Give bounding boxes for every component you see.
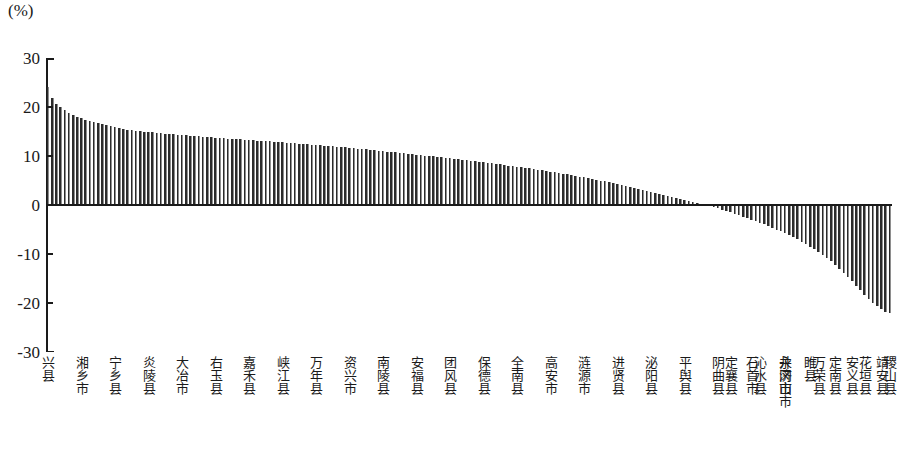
bar — [177, 135, 180, 205]
bar — [93, 122, 96, 205]
bar — [453, 159, 456, 205]
bar — [776, 205, 779, 230]
bar — [759, 205, 762, 223]
x-category-label: 大冶市 — [176, 356, 189, 395]
x-category-label: 南陵县 — [377, 356, 390, 395]
x-category-label: 睢县 — [804, 356, 817, 382]
bar — [595, 180, 598, 205]
bar — [59, 107, 62, 205]
bar — [817, 205, 820, 252]
x-category-label: 安福县 — [410, 356, 423, 395]
y-axis-tick — [46, 253, 53, 255]
bar — [160, 133, 163, 205]
bar — [583, 177, 586, 205]
bar — [298, 144, 301, 205]
bar — [378, 151, 381, 205]
y-axis-tick — [46, 155, 53, 157]
bar — [361, 149, 364, 205]
bar — [306, 144, 309, 205]
bar — [357, 149, 360, 205]
bar — [625, 186, 628, 205]
bar — [47, 87, 50, 205]
bar — [181, 135, 184, 205]
x-category-label: 湘乡市 — [75, 356, 88, 395]
bar — [579, 177, 582, 205]
x-category-label: 沁水县 — [754, 356, 767, 395]
bar — [788, 205, 791, 235]
bar — [843, 205, 846, 273]
bar — [382, 151, 385, 205]
bar — [415, 155, 418, 205]
x-category-label: 进贤县 — [611, 356, 624, 395]
bar — [394, 152, 397, 205]
bar — [884, 205, 887, 312]
bar — [68, 113, 71, 205]
bar — [440, 157, 443, 205]
bar — [633, 188, 636, 205]
bar — [64, 110, 67, 205]
bar — [742, 205, 745, 217]
bar — [373, 150, 376, 205]
bar — [198, 136, 201, 205]
bar — [147, 132, 150, 205]
bar — [210, 137, 213, 205]
bar — [600, 181, 603, 206]
bar — [646, 191, 649, 205]
bar — [570, 175, 573, 205]
bar — [889, 205, 892, 313]
bar — [327, 146, 330, 205]
bar — [164, 134, 167, 205]
bar — [244, 140, 247, 205]
x-category-label: 炎陵县 — [142, 356, 155, 395]
bar — [855, 205, 858, 286]
bar — [537, 170, 540, 205]
bar — [97, 123, 100, 205]
bar — [608, 182, 611, 205]
bar — [591, 179, 594, 205]
bar — [499, 164, 502, 205]
bar — [227, 139, 230, 205]
bar — [734, 205, 737, 214]
bar — [466, 160, 469, 205]
bar — [834, 205, 837, 265]
bar — [185, 135, 188, 205]
bar — [256, 141, 259, 205]
bar — [286, 143, 289, 205]
bar — [223, 138, 226, 205]
x-category-label: 定南县 — [829, 356, 842, 395]
y-tick-label: 10 — [23, 148, 40, 165]
plot-area — [46, 58, 892, 352]
bar — [482, 162, 485, 205]
bar — [612, 183, 615, 205]
bar — [750, 205, 753, 220]
bar — [214, 138, 217, 205]
bar — [729, 205, 732, 212]
bar — [390, 152, 393, 205]
x-category-label: 平舆县 — [678, 356, 691, 395]
bar — [474, 161, 477, 205]
bar — [838, 205, 841, 269]
bar — [813, 205, 816, 249]
bar — [407, 154, 410, 205]
bar — [470, 161, 473, 205]
bar — [265, 141, 268, 205]
bar — [399, 153, 402, 205]
x-category-label: 万年县 — [310, 356, 323, 395]
bar — [868, 205, 871, 299]
bar — [202, 137, 205, 205]
bar — [461, 160, 464, 205]
bar — [826, 205, 829, 258]
y-tick-label: -30 — [17, 344, 40, 361]
x-category-label: 花垣县 — [858, 356, 871, 395]
bar — [545, 171, 548, 205]
bar — [541, 170, 544, 205]
bar — [805, 205, 808, 244]
bar — [449, 158, 452, 205]
bar — [487, 163, 490, 205]
bar — [122, 129, 125, 205]
bar — [51, 98, 54, 205]
bar — [235, 139, 238, 205]
bar — [554, 172, 557, 205]
bar — [290, 143, 293, 205]
bar — [780, 205, 783, 231]
